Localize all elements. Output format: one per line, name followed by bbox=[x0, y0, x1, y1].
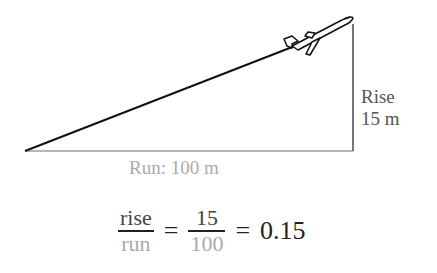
rise-over-run-fraction: rise run bbox=[118, 208, 154, 254]
fraction-numerator-15: 15 bbox=[194, 208, 220, 228]
fraction-denominator-100: 100 bbox=[188, 234, 225, 254]
numeric-fraction: 15 100 bbox=[188, 208, 225, 254]
fraction-numerator-rise: rise bbox=[118, 208, 154, 228]
flight-path-line bbox=[25, 44, 300, 151]
run-label: Run: 100 m bbox=[129, 157, 219, 179]
equals-sign: = bbox=[235, 216, 250, 246]
rise-label-value: 15 m bbox=[361, 108, 400, 130]
slope-result: 0.15 bbox=[260, 216, 306, 246]
airplane-icon bbox=[284, 17, 353, 55]
fraction-denominator-run: run bbox=[119, 234, 152, 254]
slope-equation: rise run = 15 100 = 0.15 bbox=[118, 206, 306, 256]
rise-label-title: Rise bbox=[361, 86, 400, 108]
equals-sign: = bbox=[164, 216, 179, 246]
rise-label: Rise 15 m bbox=[361, 86, 400, 130]
